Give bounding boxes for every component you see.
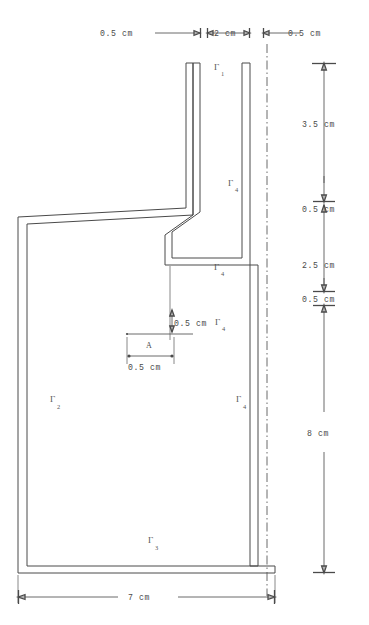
top-dim-right-gap-label: 0.5 cm xyxy=(288,29,321,38)
bottom-dim-label: 7 cm xyxy=(128,593,150,602)
label-gamma-2: Γ 2 xyxy=(50,394,60,410)
gamma-4-upper-subscript: 4 xyxy=(235,186,239,193)
label-gamma-4-mid: Γ 4 xyxy=(215,317,226,332)
gamma-3-symbol: Γ xyxy=(148,535,153,545)
outer-left-wall xyxy=(18,63,275,573)
gamma-4-mid-subscript: 4 xyxy=(222,325,226,332)
right-dimension-group: 3.5 cm 0.5 cm 2.5 cm 0.5 cm xyxy=(302,63,336,573)
right-dim-0-5-a-label: 0.5 cm xyxy=(302,205,335,214)
right-dim-0-5-b: 0.5 cm xyxy=(302,278,335,304)
interior-dim-ledge: 0.5 cm xyxy=(170,266,207,340)
label-gamma-4-ledge: Γ 4 xyxy=(214,262,225,277)
point-a-marker xyxy=(126,333,128,335)
gamma-1-subscript: 1 xyxy=(221,70,224,77)
interior-dimension-group: 0.5 cm A 0.5 cm xyxy=(126,266,207,372)
label-gamma-3: Γ 3 xyxy=(148,535,158,551)
point-a-label: A xyxy=(146,341,152,350)
right-dim-3-5-label: 3.5 cm xyxy=(302,120,335,129)
right-wall-lower xyxy=(250,265,258,566)
right-dim-3-5: 3.5 cm xyxy=(302,63,336,183)
right-dim-8-label: 8 cm xyxy=(307,429,329,438)
top-dim-left-gap: 0.5 cm xyxy=(100,28,201,38)
label-gamma-1: Γ 1 xyxy=(214,62,224,77)
gamma-4-lower-symbol: Γ xyxy=(236,394,241,404)
bottom-dimension-group: 7 cm xyxy=(18,575,275,604)
right-dim-0-5-a: 0.5 cm xyxy=(302,176,335,214)
interior-dim-point-a-label: 0.5 cm xyxy=(128,363,161,372)
top-dim-right-gap: 0.5 cm xyxy=(263,28,321,38)
boundary-labels: Γ 1 Γ 4 Γ 4 Γ 4 Γ 4 Γ 2 xyxy=(50,62,247,551)
gamma-1-symbol: Γ xyxy=(214,62,219,72)
right-dim-2-5-label: 2.5 cm xyxy=(302,261,335,270)
gamma-4-lower-subscript: 4 xyxy=(243,403,247,410)
label-gamma-4-upper: Γ 4 xyxy=(228,178,239,193)
gamma-2-symbol: Γ xyxy=(50,394,55,404)
inner-left-wall xyxy=(165,63,250,265)
technical-drawing: 0.5 cm 2 cm 0.5 cm xyxy=(0,0,369,625)
geometry-outline xyxy=(18,63,275,573)
top-dim-left-gap-label: 0.5 cm xyxy=(100,29,133,38)
label-gamma-4-lower: Γ 4 xyxy=(236,394,247,410)
gamma-4-mid-symbol: Γ xyxy=(215,317,220,327)
right-dim-0-5-b-label: 0.5 cm xyxy=(302,295,335,304)
top-dim-channel-label: 2 cm xyxy=(214,29,236,38)
top-dimension-group: 0.5 cm 2 cm 0.5 cm xyxy=(100,28,321,38)
figure-canvas: 0.5 cm 2 cm 0.5 cm xyxy=(0,0,369,625)
gamma-4-ledge-subscript: 4 xyxy=(221,270,225,277)
top-dim-channel: 2 cm xyxy=(207,28,250,38)
interior-dim-ledge-label: 0.5 cm xyxy=(174,319,207,328)
gamma-2-subscript: 2 xyxy=(57,403,60,410)
interior-dim-point-a: A 0.5 cm xyxy=(127,337,174,372)
right-dim-2-5: 2.5 cm xyxy=(302,205,335,285)
gamma-3-subscript: 3 xyxy=(155,544,158,551)
right-dim-8: 8 cm xyxy=(307,305,335,573)
gamma-4-ledge-symbol: Γ xyxy=(214,262,219,272)
gamma-4-upper-symbol: Γ xyxy=(228,178,233,188)
